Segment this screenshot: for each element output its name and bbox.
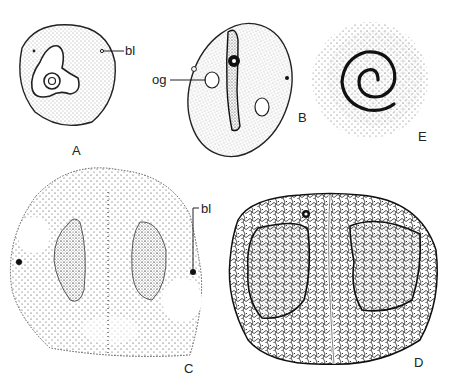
annotation-b-og: og — [152, 73, 166, 86]
annotation-c-bl: bl — [201, 202, 211, 215]
panel-b-label: B — [298, 111, 307, 124]
panel-e-label: E — [418, 130, 427, 143]
panel-c-cell — [10, 168, 202, 357]
figure-canvas — [0, 0, 450, 384]
annotation-a-bl: bl — [125, 44, 135, 57]
panel-d-label: D — [414, 356, 423, 369]
panel-b-cell — [170, 10, 309, 170]
panel-e-spiral — [312, 22, 428, 138]
panel-a-label: A — [72, 144, 81, 157]
panel-c-label: C — [184, 362, 193, 375]
panel-a-cell — [20, 25, 124, 126]
panel-d-cell — [229, 194, 437, 365]
